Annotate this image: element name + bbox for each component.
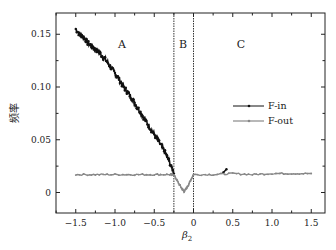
x-tick-label: −0.5: [143, 218, 165, 228]
data-point: [138, 174, 140, 176]
data-point: [153, 133, 155, 135]
y-tick-label: 0.10: [31, 82, 51, 92]
data-point: [166, 173, 168, 175]
data-point: [244, 173, 246, 175]
data-point: [112, 67, 114, 69]
data-point: [104, 56, 106, 58]
data-point: [145, 119, 147, 121]
data-point: [240, 174, 242, 176]
data-point: [124, 89, 126, 91]
data-point: [83, 173, 85, 175]
data-point: [126, 174, 128, 176]
legend-item-f-in: F-in: [233, 100, 287, 111]
y-axis-label: 频率: [8, 103, 20, 123]
data-point: [204, 174, 206, 176]
data-point: [163, 174, 165, 176]
frequency-chart: −1.5−1.0−0.500.51.01.5 00.050.100.15 A B…: [0, 0, 336, 250]
data-point: [133, 102, 135, 104]
data-point: [89, 43, 91, 45]
series-f-out: [75, 172, 312, 193]
data-point: [208, 173, 210, 175]
data-point: [164, 149, 166, 151]
data-point: [224, 174, 226, 176]
data-point: [271, 173, 273, 175]
legend-label-f-out: F-out: [268, 115, 293, 126]
data-point: [186, 187, 188, 189]
data-point: [188, 183, 190, 185]
x-tick-label: 1.5: [304, 218, 319, 228]
data-point: [114, 173, 116, 175]
data-point: [299, 173, 301, 175]
region-label-b: B: [179, 38, 187, 51]
legend-item-f-out: F-out: [233, 115, 293, 126]
y-tick-label: 0.15: [31, 29, 51, 39]
data-point: [303, 173, 305, 175]
data-point: [87, 174, 89, 176]
data-point: [107, 62, 109, 64]
data-point: [225, 168, 227, 170]
data-point: [153, 174, 155, 176]
x-tick-label: 1.0: [265, 218, 280, 228]
data-point: [85, 38, 87, 40]
data-point: [109, 64, 111, 66]
data-point: [149, 129, 151, 131]
series-f-in: [75, 28, 228, 175]
data-point: [166, 154, 168, 156]
data-point: [149, 174, 151, 176]
data-point: [291, 173, 293, 175]
data-point: [188, 185, 190, 187]
data-point: [102, 59, 104, 61]
data-point: [94, 49, 96, 51]
data-point: [179, 184, 181, 186]
data-point: [168, 158, 170, 160]
data-point: [200, 174, 202, 176]
x-tick-label: −1.5: [65, 218, 87, 228]
data-point: [102, 174, 104, 176]
data-point: [134, 174, 136, 176]
data-point: [236, 173, 238, 175]
data-point: [99, 51, 101, 53]
data-point: [279, 173, 281, 175]
legend-label-f-in: F-in: [268, 100, 287, 111]
legend: F-in F-out: [233, 100, 293, 126]
region-label-a: A: [117, 38, 127, 51]
data-point: [130, 174, 132, 176]
data-point: [251, 174, 253, 176]
y-tick-label: 0.05: [31, 135, 51, 145]
axes-frame: [56, 13, 325, 213]
data-point: [162, 147, 164, 149]
data-point: [77, 31, 79, 33]
data-point: [275, 173, 277, 175]
data-point: [134, 104, 136, 106]
x-axis-label-sub: 2: [188, 235, 192, 243]
data-point: [146, 174, 148, 176]
data-point: [212, 174, 214, 176]
data-point: [156, 173, 158, 175]
data-point: [137, 106, 139, 108]
data-point: [120, 81, 122, 83]
y-tick-label: 0: [45, 188, 51, 198]
data-point: [114, 72, 116, 74]
data-point: [110, 174, 112, 176]
data-point: [143, 118, 145, 120]
data-point: [156, 136, 158, 138]
data-point: [160, 143, 162, 145]
x-axis-label: β2: [181, 229, 192, 243]
data-point: [141, 114, 143, 116]
data-point: [171, 166, 173, 168]
data-point: [283, 173, 285, 175]
data-point: [306, 173, 308, 175]
data-point: [117, 75, 119, 77]
data-point: [98, 174, 100, 176]
data-point: [75, 174, 77, 176]
x-tick-label: −1.0: [104, 218, 126, 228]
x-tick-label: 0: [191, 218, 197, 228]
data-point: [267, 173, 269, 175]
data-point: [87, 40, 89, 42]
data-point: [118, 79, 120, 81]
data-point: [92, 46, 94, 48]
data-point: [263, 174, 265, 176]
data-point: [139, 110, 141, 112]
y-tick-labels: 00.050.100.15: [31, 29, 51, 197]
data-point: [160, 174, 162, 176]
